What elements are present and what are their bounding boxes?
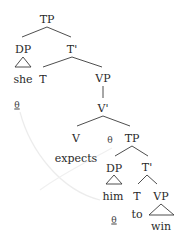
- node-t-top: T: [39, 74, 46, 85]
- theta-mark-him: θ: [111, 216, 116, 225]
- node-vp-top: VP: [95, 73, 110, 84]
- leaf-expects: expects: [55, 153, 98, 164]
- node-vp-embedded: VP: [153, 191, 168, 202]
- node-dp-object: DP: [106, 163, 122, 174]
- tree-branches: [0, 0, 182, 245]
- leaf-to: to: [131, 209, 142, 220]
- node-tp-embedded: TP: [125, 133, 140, 144]
- leaf-win: win: [151, 221, 171, 232]
- leaf-him: him: [102, 191, 123, 202]
- node-dp-subject: DP: [15, 44, 31, 55]
- leaf-she: she: [13, 74, 32, 85]
- node-t-embedded: T: [133, 191, 140, 202]
- syntax-tree: TP DP she T' T VP θ V' V θ TP expects DP…: [0, 0, 182, 245]
- node-tp-root: TP: [40, 14, 55, 25]
- node-t-bar-embedded: T': [142, 162, 152, 173]
- theta-mark-tp: θ: [107, 136, 112, 145]
- node-v-bar: V': [98, 103, 109, 114]
- theta-mark-she: θ: [14, 101, 19, 110]
- node-v: V: [72, 133, 80, 144]
- node-t-bar-top: T': [67, 44, 77, 55]
